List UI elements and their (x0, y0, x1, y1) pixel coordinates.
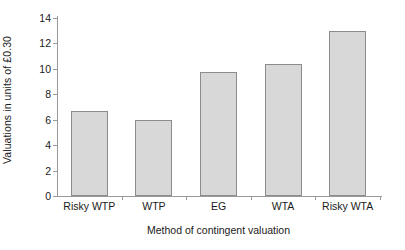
x-tick-mark (380, 196, 381, 200)
y-tick-label: 2 (45, 165, 51, 176)
y-tick-mark (53, 196, 57, 197)
bar-wtp (135, 120, 172, 196)
x-tick-label-risky-wta: Risky WTA (315, 201, 380, 213)
x-tick-label-risky-wtp: Risky WTP (57, 201, 122, 213)
x-tick-mark (186, 196, 187, 200)
x-tick-label-wta: WTA (251, 201, 316, 213)
bar-wta (265, 64, 302, 196)
x-tick-mark (251, 196, 252, 200)
y-tick-mark (53, 69, 57, 70)
y-tick-label: 8 (45, 89, 51, 100)
y-tick-mark (53, 43, 57, 44)
y-tick-mark (53, 94, 57, 95)
y-tick-mark (53, 120, 57, 121)
x-tick-mark (122, 196, 123, 200)
y-tick-mark (53, 18, 57, 19)
y-tick-label: 10 (39, 64, 51, 75)
y-tick-label: 6 (45, 114, 51, 125)
x-tick-label-wtp: WTP (122, 201, 187, 213)
y-axis-title: Valuations in units of £0.30 (0, 0, 14, 200)
y-tick-label: 4 (45, 140, 51, 151)
x-tick-mark (315, 196, 316, 200)
y-tick-label: 0 (45, 191, 51, 202)
plot-area: 02468101214 (57, 18, 380, 196)
bar-chart: Valuations in units of £0.30 02468101214… (0, 0, 405, 250)
y-tick-mark (53, 145, 57, 146)
y-tick-label: 14 (39, 13, 51, 24)
bar-risky-wta (329, 31, 366, 196)
x-axis-line (57, 196, 382, 197)
x-axis-title: Method of contingent valuation (57, 224, 380, 236)
y-tick-mark (53, 171, 57, 172)
bar-risky-wtp (71, 111, 108, 196)
bar-eg (200, 72, 237, 196)
y-tick-label: 12 (39, 38, 51, 49)
x-tick-label-eg: EG (186, 201, 251, 213)
